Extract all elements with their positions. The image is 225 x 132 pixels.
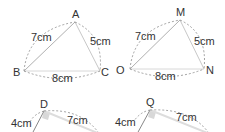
triangle-q: Q 4cm 7cm <box>115 96 210 132</box>
side-mn-label: 5cm <box>194 35 215 47</box>
diagram-canvas: A B C 7cm 5cm 8cm M O N 7cm 5cm 8cm D 4c… <box>0 0 225 132</box>
vertex-d-label: D <box>40 98 48 110</box>
side-ac-label: 5cm <box>90 35 111 47</box>
vertex-b-label: B <box>13 66 20 78</box>
triangle-mon: M O N 7cm 5cm 8cm <box>116 6 215 82</box>
vertex-m-label: M <box>176 6 185 18</box>
side-q-left-label: 4cm <box>115 116 136 128</box>
vertex-n-label: N <box>206 64 214 76</box>
vertex-a-label: A <box>72 8 80 20</box>
arc-q-left <box>134 110 150 121</box>
side-bc-label: 8cm <box>52 72 73 84</box>
triangle-abc: A B C 7cm 5cm 8cm <box>13 8 111 84</box>
side-q-left <box>137 110 150 132</box>
side-d-right-label: 7cm <box>67 114 88 126</box>
vertex-c-label: C <box>101 66 109 78</box>
side-d-left-label: 4cm <box>11 117 32 129</box>
side-ab-label: 7cm <box>31 31 52 43</box>
vertex-q-label: Q <box>146 96 155 108</box>
arc-d-left <box>30 111 44 122</box>
side-on-label: 8cm <box>155 70 176 82</box>
side-q-right-label: 7cm <box>176 111 197 123</box>
vertex-o-label: O <box>116 64 125 76</box>
triangle-d: D 4cm 7cm <box>11 98 100 132</box>
side-d-left <box>32 111 44 132</box>
side-om-label: 7cm <box>135 30 156 42</box>
